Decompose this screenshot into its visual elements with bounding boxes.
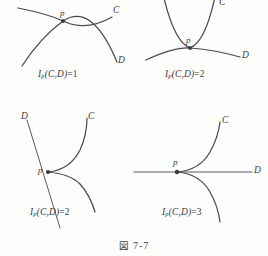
formula-intersection-multiplicity: Ip(C,D)=2 [30,208,70,218]
curve-label-c: C [88,112,94,122]
point-label-p: p [60,9,65,18]
panel-tangential-intersection: p C D Ip(C,D)=2 [134,0,268,90]
formula-arguments: (C,D) [172,69,194,79]
curve-label-d: D [254,166,261,176]
curve-label-d: D [242,51,249,61]
panel-cusp-transverse-line: p C D Ip(C,D)=2 [0,100,134,228]
curve-c-upper-branch [177,122,220,172]
curve-label-d: D [21,112,28,122]
formula-arguments: (C,D) [37,207,59,217]
formula-arguments: (C,D) [45,69,67,79]
curve-c-lower-branch [48,172,95,212]
curve-label-c: C [113,6,119,16]
curve-label-c: C [219,0,225,8]
formula-intersection-multiplicity: Ip(C,D)=1 [38,70,78,80]
point-label-p: p [173,158,178,167]
formula-value: 2 [65,207,70,217]
curve-c-path [18,8,112,26]
formula-intersection-multiplicity: Ip(C,D)=2 [165,70,205,80]
tangency-point-dot [188,46,192,50]
formula-value: 3 [197,207,202,217]
curve-label-c: C [222,116,228,126]
intersection-point-dot [61,19,65,23]
formula-value: 1 [73,69,78,79]
curve-d-path [146,48,240,60]
figure-caption: 図 7-7 [0,238,268,252]
cusp-point-dot [46,170,50,174]
cusp-point-dot [175,170,179,174]
point-label-p: p [38,166,43,175]
curve-label-d: D [118,56,125,66]
panel-transverse-intersection: p C D Ip(C,D)=1 [0,0,134,90]
panel-cusp-tangent-line: p C D Ip(C,D)=3 [134,100,268,228]
formula-arguments: (C,D) [169,207,191,217]
formula-value: 2 [200,69,205,79]
point-label-p: p [186,36,191,45]
curve-c-upper-branch [48,118,87,172]
formula-intersection-multiplicity: Ip(C,D)=3 [162,208,202,218]
figure-page: p C D Ip(C,D)=1 p C D Ip(C,D)=2 [0,0,268,256]
